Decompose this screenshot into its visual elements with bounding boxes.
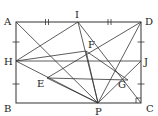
label-point-b: B xyxy=(4,103,11,114)
label-point-g: G xyxy=(118,79,126,90)
label-point-p: P xyxy=(95,106,102,116)
segment-hf xyxy=(16,51,86,61)
segment-ep xyxy=(47,78,98,103)
segment-fp xyxy=(86,51,98,103)
label-point-a: A xyxy=(3,16,12,27)
label-point-j: J xyxy=(143,56,148,67)
segment-ap xyxy=(16,22,98,103)
segment-ih xyxy=(16,22,78,61)
rectangle-abcd xyxy=(16,22,141,103)
label-point-h: H xyxy=(4,56,13,67)
segments xyxy=(16,22,141,103)
segment-de xyxy=(47,22,141,78)
geometry-figure: ABCDIHJPEFG xyxy=(0,0,158,116)
segment-fg xyxy=(86,51,128,80)
label-point-e: E xyxy=(37,78,44,89)
label-point-i: I xyxy=(75,9,79,20)
label-point-c: C xyxy=(146,103,154,114)
label-point-f: F xyxy=(88,39,95,50)
label-point-d: D xyxy=(145,16,153,27)
segment-ic xyxy=(78,22,141,103)
segment-dp xyxy=(98,22,141,103)
segment-eg xyxy=(47,78,128,80)
